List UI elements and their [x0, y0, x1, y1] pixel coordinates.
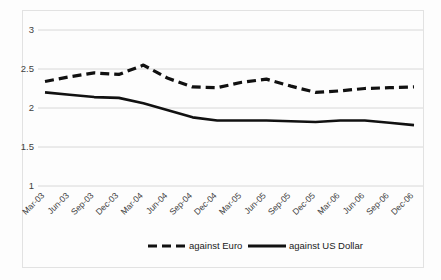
x-axis-category-label: Mar-03 [20, 190, 46, 216]
chart-container: 11.522.53 Mar-03Jun-03Sep-03Dec-03Mar-04… [0, 0, 441, 280]
x-axis-category-label: Jun-03 [45, 190, 71, 216]
series-paths-group [45, 65, 414, 125]
chart-plot-area: 11.522.53 Mar-03Jun-03Sep-03Dec-03Mar-04… [0, 0, 441, 280]
x-axis-category-label: Dec-04 [192, 190, 219, 217]
x-axis-category-label: Mar-06 [315, 190, 341, 216]
x-axis-category-label: Dec-03 [94, 190, 121, 217]
legend-label: against Euro [189, 240, 242, 251]
y-axis-tick-label: 2.5 [21, 63, 34, 74]
y-axis-tick-label: 1 [29, 180, 34, 191]
x-axis-category-label: Sep-04 [167, 190, 194, 217]
x-axis-category-label: Jun-05 [242, 190, 268, 216]
y-axis-tick-label: 1.5 [21, 141, 34, 152]
x-axis-category-labels: Mar-03Jun-03Sep-03Dec-03Mar-04Jun-04Sep-… [20, 190, 415, 217]
gridlines-group [38, 30, 423, 186]
x-axis-category-label: Sep-06 [364, 190, 391, 217]
legend-label: against US Dollar [289, 240, 363, 251]
x-axis-category-label: Mar-04 [118, 190, 144, 216]
x-axis-category-label: Jun-04 [144, 190, 170, 216]
chart-legend: against Euroagainst US Dollar [148, 240, 363, 251]
x-axis-category-label: Sep-03 [69, 190, 96, 217]
x-axis-category-label: Dec-06 [389, 190, 416, 217]
x-axis-category-label: Dec-05 [290, 190, 317, 217]
x-axis-category-label: Jun-06 [341, 190, 367, 216]
x-axis-category-label: Mar-05 [217, 190, 243, 216]
x-axis-category-label: Sep-05 [266, 190, 293, 217]
y-axis-tick-label: 2 [29, 102, 34, 113]
y-axis-tick-labels: 11.522.53 [21, 24, 34, 191]
y-axis-tick-label: 3 [29, 24, 34, 35]
series-line-against-us-dollar [45, 92, 414, 125]
